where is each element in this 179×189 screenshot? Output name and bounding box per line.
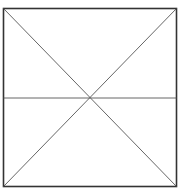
diagram-canvas bbox=[0, 0, 179, 189]
